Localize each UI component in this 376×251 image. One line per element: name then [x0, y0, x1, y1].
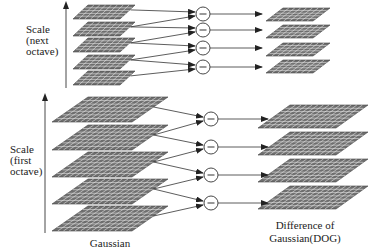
- subtract-node-first-octave: [204, 168, 218, 182]
- subtract-node-next-octave: [196, 7, 210, 21]
- gaussian-layer-first-octave: [52, 125, 168, 150]
- dog-layer-next-octave: [266, 8, 330, 21]
- gaussian-layer-first-octave: [52, 179, 168, 204]
- scale-first-octave-label: Scale (first octave): [10, 144, 42, 177]
- gaussian-layer-next-octave: [73, 5, 135, 19]
- subtract-node-next-octave: [196, 41, 210, 55]
- subtract-node-next-octave: [196, 60, 210, 74]
- gaussian-layer-next-octave: [73, 71, 135, 85]
- dog-layer-first-octave: [258, 186, 368, 209]
- dog-layer-next-octave: [266, 43, 330, 56]
- dog-layer-first-octave: [258, 105, 368, 128]
- gaussian-layer-first-octave: [52, 152, 168, 177]
- gaussian-layer-first-octave: [52, 206, 168, 231]
- subtract-node-first-octave: [204, 140, 218, 154]
- subtract-node-next-octave: [196, 23, 210, 37]
- subtract-node-first-octave: [204, 112, 218, 126]
- scale-next-octave-label: Scale (next octave): [26, 24, 58, 57]
- gaussian-layer-next-octave: [73, 38, 135, 52]
- gaussian-layer-next-octave: [73, 22, 135, 36]
- dog-label-line2: Gaussian(DOG): [262, 233, 348, 244]
- dog-layer-next-octave: [266, 25, 330, 38]
- dog-layer-first-octave: [258, 159, 368, 182]
- gaussian-layer-first-octave: [52, 97, 168, 122]
- dog-layer-next-octave: [266, 60, 330, 73]
- gaussian-label: Gaussian: [85, 238, 135, 249]
- dog-label-line1: Difference of: [265, 220, 345, 231]
- dog-layer-first-octave: [258, 132, 368, 155]
- gaussian-layer-next-octave: [73, 55, 135, 69]
- subtract-node-first-octave: [204, 196, 218, 210]
